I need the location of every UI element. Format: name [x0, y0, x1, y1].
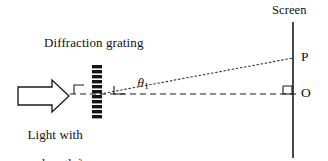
theta-subscript: 1 — [144, 81, 149, 91]
point-p-label: P — [301, 49, 309, 64]
incoming-light-arrow — [18, 80, 69, 112]
right-angle-marker-before-grating — [74, 85, 84, 94]
grating-bar — [92, 95, 102, 98]
screen-label: Screen — [272, 3, 307, 17]
theta-symbol: θ — [137, 75, 144, 90]
light-source-label-line2: wavelength λ — [14, 157, 85, 161]
grating-bar — [92, 80, 102, 83]
light-source-label-line1: Light with — [27, 127, 83, 142]
grating-bar — [92, 90, 102, 93]
diffraction-grating-label: Diffraction grating — [44, 36, 144, 51]
diffraction-angle-label: θ1 — [124, 61, 149, 105]
light-source-label: Light with wavelength λ — [14, 113, 85, 161]
diffraction-grating-figure: Screen Diffraction grating Light with wa… — [0, 0, 328, 161]
grating-bar — [92, 85, 102, 88]
grating-bar — [92, 70, 102, 73]
grating-bar — [92, 100, 102, 103]
grating-bar — [92, 115, 102, 118]
diffraction-grating-bars — [92, 65, 102, 118]
right-angle-marker-origin — [283, 86, 292, 94]
grating-bar — [92, 105, 102, 108]
point-o-label: O — [301, 85, 311, 100]
grating-bar — [92, 110, 102, 113]
grating-bar — [92, 75, 102, 78]
grating-bar — [92, 65, 102, 68]
